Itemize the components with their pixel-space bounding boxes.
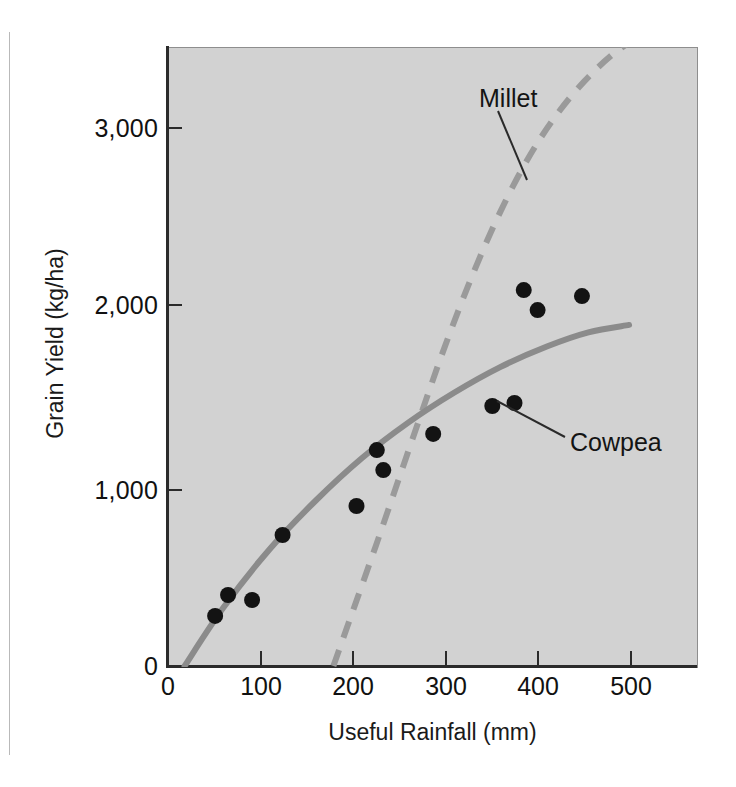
- x-tick-mark-300: [445, 651, 447, 666]
- x-tick-label-200: 200: [313, 672, 393, 701]
- y-tick-mark-2000: [169, 304, 182, 306]
- series-label-cowpea: Cowpea: [570, 428, 662, 457]
- x-tick-mark-100: [260, 651, 262, 666]
- y-tick-label-3000: 3,000: [94, 114, 158, 143]
- y-tick-mark-3000: [169, 127, 182, 129]
- x-tick-label-100: 100: [221, 672, 301, 701]
- y-tick-label-2000: 2,000: [94, 291, 158, 320]
- y-axis-line: [166, 46, 169, 668]
- y-tick-label-2000-wrap: 2,000: [0, 291, 158, 317]
- figure-container: 3,000 2,000 1,000 0 0 100 200 300 400 50…: [0, 0, 736, 787]
- y-tick-label-1000-wrap: 1,000: [0, 476, 158, 502]
- y-tick-label-1000: 1,000: [94, 476, 158, 505]
- x-tick-label-300: 300: [406, 672, 486, 701]
- series-label-millet: Millet: [479, 84, 537, 113]
- x-tick-label-0: 0: [128, 672, 208, 701]
- x-axis-line: [166, 665, 697, 668]
- x-tick-mark-200: [352, 651, 354, 666]
- y-tick-mark-0: [169, 665, 182, 667]
- y-tick-label-3000-wrap: 3,000: [0, 114, 158, 140]
- y-axis-title: Grain Yield (kg/ha): [42, 179, 69, 509]
- x-axis-title: Useful Rainfall (mm): [168, 719, 697, 746]
- x-tick-mark-500: [630, 651, 632, 666]
- y-tick-mark-1000: [169, 489, 182, 491]
- plot-area: [168, 47, 698, 668]
- left-margin-rule: [9, 32, 10, 755]
- x-tick-label-500: 500: [591, 672, 671, 701]
- x-tick-label-400: 400: [498, 672, 578, 701]
- x-tick-mark-400: [537, 651, 539, 666]
- x-tick-mark-0: [167, 651, 169, 666]
